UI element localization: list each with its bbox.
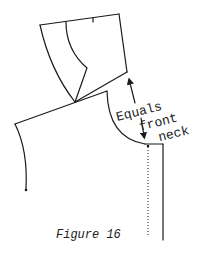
fold-line-dot <box>147 145 150 148</box>
annotation-text: Equals front neck <box>115 94 191 154</box>
arrow-up <box>130 81 136 103</box>
bodice-side-seam <box>15 124 26 189</box>
figure-caption: Figure 16 <box>56 228 121 242</box>
upper-pattern-piece <box>40 14 127 102</box>
side-seam-end-dot <box>25 189 28 192</box>
dart-inner-curve <box>66 22 87 102</box>
bodice-shoulder-line <box>15 91 107 124</box>
upper-piece-bottom-edge <box>75 72 127 102</box>
upper-piece-left-curve <box>40 25 75 102</box>
pattern-diagram: Equals front neck Figure 16 <box>0 0 212 254</box>
upper-piece-top-edge <box>40 14 119 25</box>
upper-piece-right-edge <box>119 14 127 72</box>
